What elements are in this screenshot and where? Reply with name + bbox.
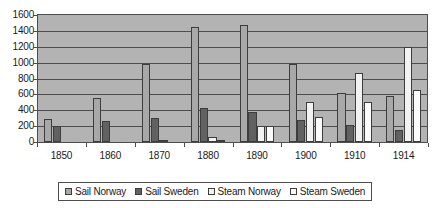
- bar: [355, 73, 363, 142]
- bar: [257, 126, 265, 142]
- legend-label: Sail Sweden: [145, 186, 198, 197]
- bars-layer: [38, 15, 427, 142]
- x-tick-label: 1900: [295, 150, 316, 162]
- x-tick-mark: [184, 143, 185, 147]
- x-tick-mark: [233, 143, 234, 147]
- legend-item[interactable]: Sail Norway: [65, 186, 126, 197]
- bar: [315, 117, 323, 142]
- bar-group: [93, 15, 128, 142]
- bar: [364, 102, 372, 142]
- x-tick-mark: [330, 143, 331, 147]
- legend-label: Steam Sweden: [300, 186, 365, 197]
- bar: [191, 27, 199, 142]
- x-tick-label: 1890: [246, 150, 267, 162]
- y-tick-label: 800: [0, 74, 34, 84]
- bar: [217, 140, 225, 142]
- y-tick-mark: [33, 15, 37, 16]
- bar-group: [386, 15, 421, 142]
- y-tick-mark: [33, 31, 37, 32]
- x-tick-mark: [281, 143, 282, 147]
- legend-label: Sail Norway: [75, 186, 126, 197]
- x-tick-mark: [428, 143, 429, 147]
- y-axis-labels: 02004006008001000120014001600: [0, 0, 34, 208]
- bar: [413, 90, 421, 142]
- y-tick-label: 1200: [0, 42, 34, 52]
- legend-swatch-icon: [65, 188, 72, 195]
- y-tick-label: 1600: [0, 10, 34, 20]
- legend-item[interactable]: Sail Sweden: [135, 186, 198, 197]
- y-tick-mark: [33, 126, 37, 127]
- bar: [240, 25, 248, 142]
- bar: [53, 126, 61, 142]
- y-tick-label: 0: [0, 137, 34, 147]
- y-tick-mark: [33, 110, 37, 111]
- chart-legend: Sail NorwaySail SwedenSteam NorwaySteam …: [58, 182, 372, 201]
- bar: [346, 125, 354, 142]
- y-tick-label: 1400: [0, 26, 34, 36]
- bar: [102, 121, 110, 142]
- y-tick-mark: [33, 79, 37, 80]
- bar-group: [142, 15, 177, 142]
- bar: [404, 47, 412, 142]
- bar: [200, 108, 208, 142]
- bar: [208, 137, 216, 142]
- y-tick-label: 1000: [0, 58, 34, 68]
- bar: [248, 112, 256, 142]
- x-axis-labels: 18501860187018801890190019101914: [37, 150, 428, 164]
- legend-swatch-icon: [135, 188, 142, 195]
- bar-group: [289, 15, 324, 142]
- y-tick-mark: [33, 47, 37, 48]
- legend-swatch-icon: [208, 188, 215, 195]
- y-tick-label: 200: [0, 121, 34, 131]
- y-tick-mark: [33, 63, 37, 64]
- bar-group: [337, 15, 372, 142]
- legend-swatch-icon: [290, 188, 297, 195]
- bar-group: [240, 15, 275, 142]
- bar: [159, 140, 167, 142]
- bar-group: [44, 15, 79, 142]
- x-tick-mark: [37, 143, 38, 147]
- bar: [306, 102, 314, 142]
- y-tick-mark: [33, 94, 37, 95]
- legend-item[interactable]: Steam Sweden: [290, 186, 365, 197]
- x-tick-mark: [379, 143, 380, 147]
- x-tick-label: 1870: [148, 150, 169, 162]
- bar: [297, 120, 305, 142]
- bar: [337, 93, 345, 142]
- bar: [151, 118, 159, 142]
- x-tick-label: 1910: [344, 150, 365, 162]
- x-tick-label: 1914: [393, 150, 414, 162]
- bar: [93, 98, 101, 142]
- bar: [266, 126, 274, 142]
- x-tick-label: 1860: [100, 150, 121, 162]
- bar: [386, 96, 394, 142]
- bar-group: [191, 15, 226, 142]
- bar: [44, 119, 52, 142]
- x-tick-mark: [135, 143, 136, 147]
- x-tick-label: 1880: [197, 150, 218, 162]
- legend-item[interactable]: Steam Norway: [208, 186, 281, 197]
- x-tick-mark: [86, 143, 87, 147]
- y-tick-label: 600: [0, 89, 34, 99]
- bar-chart: 02004006008001000120014001600 1850186018…: [0, 0, 433, 208]
- bar: [142, 64, 150, 142]
- bar: [395, 130, 403, 142]
- legend-label: Steam Norway: [218, 186, 281, 197]
- x-tick-label: 1850: [51, 150, 72, 162]
- bar: [289, 64, 297, 142]
- y-tick-label: 400: [0, 105, 34, 115]
